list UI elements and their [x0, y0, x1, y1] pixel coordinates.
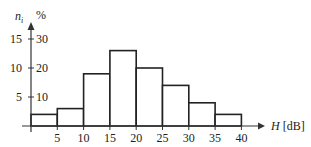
x-tick-label: 10 — [78, 131, 90, 145]
x-tick-label: 5 — [54, 131, 60, 145]
x-tick-label: 15 — [104, 131, 116, 145]
y-axis-arrow-icon — [28, 22, 35, 30]
histogram-bar — [31, 114, 57, 126]
y-axis-ticks: 51010201530 — [10, 32, 48, 104]
x-tick-label: 40 — [235, 131, 247, 145]
histogram-bar — [163, 85, 189, 126]
histogram-bar — [110, 51, 136, 126]
x-tick-label: 20 — [130, 131, 142, 145]
x-axis-arrow-icon — [258, 123, 265, 130]
x-axis-label: H[dB] — [270, 119, 305, 133]
x-tick-label: 35 — [209, 131, 221, 145]
y-tick-label-right: 20 — [36, 61, 48, 75]
histogram-bar — [57, 109, 83, 126]
x-tick-label: 25 — [157, 131, 169, 145]
y-tick-label-left: 10 — [10, 61, 22, 75]
x-tick-label: 30 — [183, 131, 195, 145]
y-tick-label-left: 15 — [10, 32, 22, 46]
y-tick-label-right: 30 — [36, 32, 48, 46]
y-axis-label-right: % — [36, 8, 46, 22]
histogram-bar — [215, 114, 241, 126]
histogram-bar — [136, 68, 162, 126]
histogram-bar — [84, 74, 110, 126]
histogram-bar — [189, 103, 215, 126]
y-tick-label-left: 5 — [16, 90, 22, 104]
y-tick-label-right: 10 — [36, 90, 48, 104]
histogram-chart: 51010201530 510152025303540 ni % H[dB] — [0, 0, 311, 147]
y-axis-label-left: ni — [15, 9, 23, 25]
x-axis-ticks: 510152025303540 — [54, 126, 247, 145]
histogram-bars — [31, 51, 241, 126]
